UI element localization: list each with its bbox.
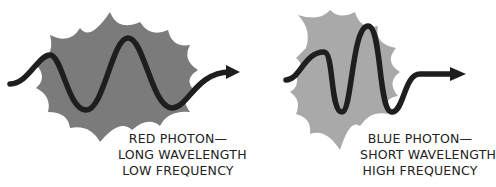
red-caption-line-3: LOW FREQUENCY bbox=[118, 163, 238, 179]
blue-photon-caption: BLUE PHOTON— SHORT WAVELENGTH HIGH FREQU… bbox=[360, 131, 480, 179]
red-caption-line-1: RED PHOTON— bbox=[118, 131, 238, 147]
red-arrowhead-icon bbox=[226, 65, 240, 79]
red-caption-line-2: LONG WAVELENGTH bbox=[118, 147, 238, 163]
blue-arrowhead-icon bbox=[450, 67, 466, 81]
red-photon-caption: RED PHOTON— LONG WAVELENGTH LOW FREQUENC… bbox=[118, 131, 238, 179]
blue-caption-line-3: HIGH FREQUENCY bbox=[360, 163, 480, 179]
red-photon-blob bbox=[36, 12, 198, 142]
blue-caption-line-2: SHORT WAVELENGTH bbox=[360, 147, 480, 163]
blue-caption-line-1: BLUE PHOTON— bbox=[360, 131, 480, 147]
